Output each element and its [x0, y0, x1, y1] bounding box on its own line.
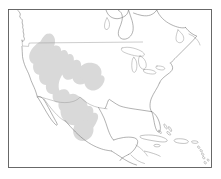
range-map-figure: Distribution range	[0, 0, 221, 179]
map-frame	[9, 10, 212, 168]
north-america-map	[0, 0, 221, 179]
